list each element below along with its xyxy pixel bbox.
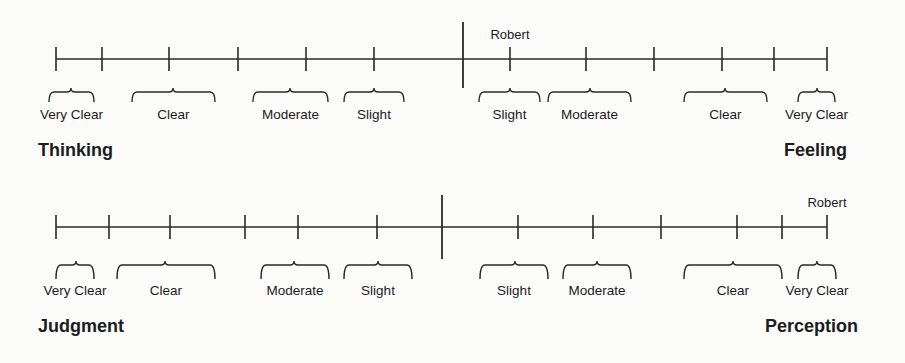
- range-brace: [548, 88, 631, 102]
- range-brace: [49, 88, 94, 102]
- clarity-category-label: Slight: [493, 107, 527, 122]
- scale-judgment-perception: RobertVery ClearClearModerateSlightSligh…: [38, 195, 858, 336]
- range-brace: [56, 261, 94, 279]
- range-brace: [480, 261, 548, 279]
- clarity-category-label: Clear: [717, 283, 750, 298]
- right-pole-label: Feeling: [784, 140, 847, 160]
- person-marker-label: Robert: [807, 195, 846, 210]
- range-brace: [117, 261, 215, 279]
- range-brace: [344, 261, 412, 279]
- clarity-category-label: Very Clear: [785, 107, 849, 122]
- clarity-category-label: Clear: [157, 107, 190, 122]
- clarity-category-label: Clear: [150, 283, 183, 298]
- range-brace: [344, 88, 404, 102]
- range-brace: [261, 261, 329, 279]
- clarity-category-label: Very Clear: [40, 107, 104, 122]
- range-brace: [132, 88, 215, 102]
- clarity-category-label: Very Clear: [43, 283, 107, 298]
- range-brace: [684, 88, 767, 102]
- range-brace: [563, 261, 631, 279]
- range-brace: [253, 88, 328, 102]
- clarity-category-label: Moderate: [262, 107, 319, 122]
- left-pole-label: Judgment: [38, 316, 124, 336]
- clarity-category-label: Slight: [357, 107, 391, 122]
- range-brace: [798, 88, 835, 102]
- left-pole-label: Thinking: [38, 140, 113, 160]
- clarity-category-label: Slight: [497, 283, 531, 298]
- range-brace: [479, 88, 540, 102]
- clarity-category-label: Moderate: [266, 283, 323, 298]
- clarity-category-label: Moderate: [568, 283, 625, 298]
- right-pole-label: Perception: [765, 316, 858, 336]
- preference-scales-diagram: RobertVery ClearClearModerateSlightSligh…: [0, 0, 905, 363]
- person-marker-label: Robert: [490, 27, 529, 42]
- clarity-category-label: Moderate: [561, 107, 618, 122]
- clarity-category-label: Clear: [709, 107, 742, 122]
- range-brace: [684, 261, 782, 279]
- clarity-category-label: Very Clear: [785, 283, 849, 298]
- clarity-category-label: Slight: [361, 283, 395, 298]
- range-brace: [798, 261, 836, 279]
- scale-thinking-feeling: RobertVery ClearClearModerateSlightSligh…: [38, 22, 849, 160]
